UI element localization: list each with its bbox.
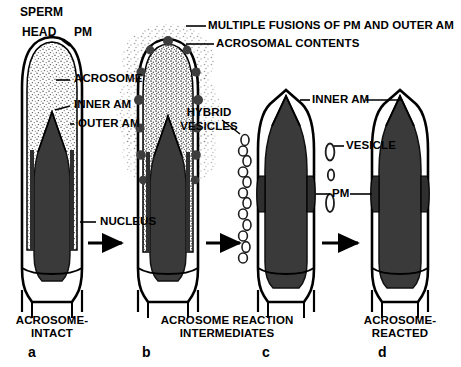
label-pm-top: PM bbox=[74, 26, 92, 39]
equatorial-segment-right-d bbox=[421, 176, 429, 212]
label-head: HEAD bbox=[22, 26, 56, 39]
label-inner-am-left: INNER AM bbox=[74, 98, 131, 110]
panel-letter-d: d bbox=[378, 345, 387, 360]
equatorial-band-left-a bbox=[30, 150, 34, 250]
caption-d-line1: ACROSOME- bbox=[350, 314, 450, 326]
caption-ticks bbox=[22, 290, 428, 312]
label-hybrid-vesicles-line2: VESICLES bbox=[172, 120, 246, 132]
equatorial-band-right-a bbox=[70, 150, 74, 250]
label-vesicle: VESICLE bbox=[346, 139, 396, 151]
equatorial-segment-right-c bbox=[307, 176, 315, 212]
label-sperm: SPERM bbox=[20, 6, 63, 19]
label-hybrid-vesicles-line1: HYBRID bbox=[178, 106, 240, 118]
panel-d-sperm-head bbox=[371, 90, 430, 318]
equatorial-segment-left-c bbox=[257, 176, 265, 212]
panel-letter-b: b bbox=[142, 345, 151, 360]
label-pm-right: PM bbox=[332, 187, 349, 199]
caption-a-line2: INTACT bbox=[2, 327, 102, 339]
acrosome-reaction-figure: SPERM HEAD PM ACROSOME INNER AM OUTER AM… bbox=[0, 0, 461, 367]
panel-letter-a: a bbox=[28, 345, 36, 360]
label-acrosome: ACROSOME bbox=[74, 72, 143, 84]
label-multiple-fusions: MULTIPLE FUSIONS OF PM AND OUTER AM bbox=[208, 19, 454, 31]
panel-a-sperm-head bbox=[22, 37, 82, 318]
label-inner-am-right: INNER AM bbox=[312, 93, 369, 105]
caption-bc-line1: ACROSOME REACTION bbox=[148, 314, 306, 326]
free-vesicles bbox=[326, 144, 335, 213]
panel-c-sperm-head bbox=[257, 90, 316, 318]
vesicle-1 bbox=[326, 144, 335, 161]
caption-bc-line2: INTERMEDIATES bbox=[148, 327, 306, 339]
panel-b-sperm-head bbox=[116, 24, 220, 318]
hybrid-vesicle-chain bbox=[238, 135, 251, 264]
caption-d-line2: REACTED bbox=[350, 327, 450, 339]
label-acrosomal-contents: ACROSOMAL CONTENTS bbox=[216, 37, 359, 49]
equatorial-band-right-b bbox=[186, 152, 190, 252]
vesicle-2 bbox=[328, 170, 334, 181]
label-nucleus: NUCLEUS bbox=[100, 215, 156, 227]
equatorial-band-left-b bbox=[146, 152, 150, 252]
label-outer-am-left: OUTER AM bbox=[78, 117, 140, 129]
diagram-artwork bbox=[0, 0, 461, 367]
panel-letter-c: c bbox=[262, 345, 270, 360]
caption-a-line1: ACROSOME- bbox=[2, 314, 102, 326]
